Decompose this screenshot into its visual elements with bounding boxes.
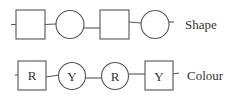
row-label: Shape (185, 17, 217, 32)
node-label: R (111, 69, 120, 84)
connector (45, 24, 56, 25)
node-square (16, 10, 45, 39)
node-label: R (28, 68, 37, 83)
node-circle (141, 11, 169, 39)
connector (46, 75, 59, 77)
connector (129, 22, 141, 23)
connector (173, 73, 179, 74)
node-label: Y (154, 69, 164, 84)
row-label: Colour (187, 68, 224, 83)
chain-diagram: Shape R Y R Y Colour (0, 0, 234, 99)
colour-row: R Y R Y Colour (15, 61, 224, 90)
node-circle (56, 11, 84, 39)
node-square (100, 10, 129, 39)
shape-row: Shape (11, 10, 217, 39)
node-label: Y (67, 69, 77, 84)
